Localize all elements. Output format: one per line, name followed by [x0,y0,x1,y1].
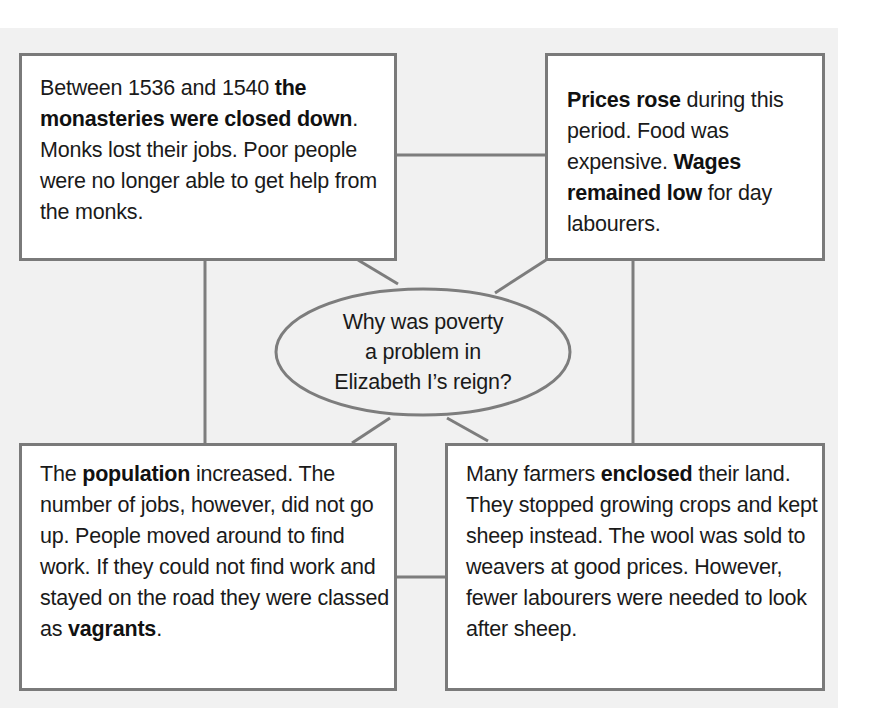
text: their land. They stopped growing crops a… [466,462,818,641]
question-line-1: Why was poverty [343,310,504,334]
keyword: vagrants [68,617,156,641]
text: The [40,462,82,486]
cause-box-prices: Prices rose during this period. Food was… [545,53,825,261]
question-line-2: a problem in [365,340,481,364]
text: Many farmers [466,462,601,486]
keyword: Prices rose [567,88,681,112]
text: increased. The number of jobs, however, … [40,462,389,641]
cause-box-enclosure: Many farmers enclosed their land. They s… [445,443,825,691]
keyword: enclosed [601,462,693,486]
spoke-bottom-right [447,418,488,441]
spoke-top-left [358,260,398,284]
cause-box-monasteries: Between 1536 and 1540 the monasteries we… [19,53,397,261]
spoke-bottom-left [352,418,390,443]
central-question: Why was poverty a problem in Elizabeth I… [275,289,571,415]
question-line-3: Elizabeth I’s reign? [334,370,511,394]
cause-box-population: The population increased. The number of … [19,443,397,691]
text: . [156,617,162,641]
text: Between 1536 and 1540 [40,76,275,100]
keyword: population [82,462,190,486]
